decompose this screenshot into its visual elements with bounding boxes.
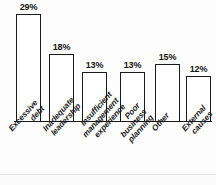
value-label-other: 15% [152,52,183,62]
chart-figure: 29% 18% 13% 13% 15% 12% Excessive debt I… [0,0,216,185]
value-label-poor-business-planning: 13% [117,60,148,70]
value-label-excessive-debt: 29% [13,2,44,12]
value-label-external-causes: 12% [183,64,214,74]
scan-artifact-band [0,179,216,185]
plot-area: 29% 18% 13% 13% 15% 12% Excessive debt I… [0,0,216,185]
x-axis-label-other: Other [150,111,171,133]
x-axis-label-inadequate-leadership: Inadequate leadership [41,96,83,140]
value-label-insufficient-management-experience: 13% [79,60,110,70]
scan-artifact-line [0,174,216,175]
value-label-inadequate-leadership: 18% [46,42,77,52]
